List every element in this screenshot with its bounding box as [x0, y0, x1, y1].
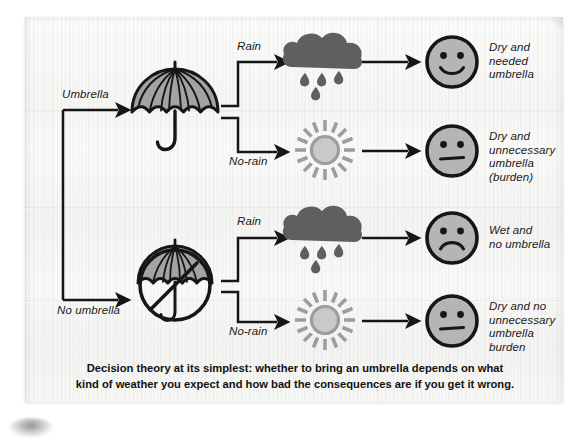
outcome-text-4: Dry and no unnecessary umbrella burden	[489, 300, 588, 354]
outcome-text-1: Dry and needed umbrella	[489, 41, 588, 82]
label-no-umbrella: No umbrella	[57, 304, 120, 317]
label-umbrella: Umbrella	[62, 88, 109, 101]
label-norain-1: No-rain	[229, 155, 267, 168]
neutral-face-icon	[427, 126, 477, 176]
outcome-arrows	[362, 62, 408, 321]
arrow-norain-2	[221, 292, 277, 322]
outcome-3-line-1: Wet and	[489, 224, 588, 238]
caption-line-2: kind of weather you expect and how bad t…	[55, 377, 535, 393]
label-norain-2: No-rain	[229, 325, 267, 338]
figure-caption: Decision theory at its simplest: whether…	[55, 361, 535, 392]
neutral-face-icon	[427, 296, 477, 346]
arrow-rain-1	[221, 62, 277, 106]
branch-no-umbrella	[221, 238, 277, 322]
sad-face-icon	[427, 213, 477, 263]
outcome-1-line-2: needed	[489, 55, 588, 69]
happy-face-icon	[427, 37, 477, 87]
rain-cloud-icon	[283, 206, 362, 274]
caption-line-1: Decision theory at its simplest: whether…	[55, 361, 535, 377]
outcome-3-line-2: no umbrella	[489, 238, 588, 252]
outcome-2-line-3: umbrella	[489, 157, 588, 171]
sun-icon	[295, 290, 355, 350]
label-rain-2: Rain	[237, 215, 261, 228]
rain-cloud-icon	[283, 33, 362, 101]
outcome-2-line-1: Dry and	[489, 130, 588, 144]
outcome-4-line-4: burden	[489, 341, 588, 355]
decision-trunk	[63, 110, 118, 300]
arrow-norain-1	[221, 118, 277, 152]
outcome-1-line-1: Dry and	[489, 41, 588, 55]
outcome-2-line-4: (burden)	[489, 171, 588, 185]
outcome-1-line-3: umbrella	[489, 68, 588, 82]
branch-umbrella	[221, 62, 277, 152]
outcome-text-3: Wet and no umbrella	[489, 224, 588, 251]
outcome-4-line-2: unnecessary	[489, 314, 588, 328]
outcome-4-line-1: Dry and no	[489, 300, 588, 314]
outcome-4-line-3: umbrella	[489, 327, 588, 341]
no-umbrella-icon	[138, 240, 212, 321]
label-rain-1: Rain	[237, 40, 261, 53]
outcome-text-2: Dry and unnecessary umbrella (burden)	[489, 130, 588, 184]
screenshot-root: Umbrella No umbrella Rain No-rain Rain N…	[0, 0, 588, 442]
sun-icon	[295, 120, 355, 180]
arrow-rain-2	[221, 238, 277, 281]
umbrella-icon	[132, 62, 218, 150]
outcome-2-line-2: unnecessary	[489, 144, 588, 158]
